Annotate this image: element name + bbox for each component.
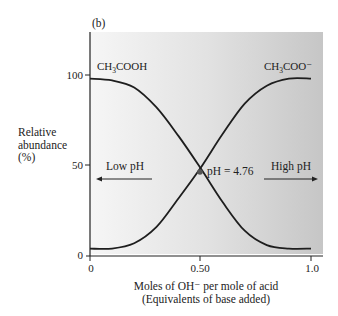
titration-chart: (b) 100 50 0 0 0.50 1.0 Relative abundan… [0, 0, 338, 316]
y-tick-label-50: 50 [72, 159, 84, 171]
y-tick-label-0: 0 [78, 249, 84, 261]
x-tick-label-1: 1.0 [305, 262, 319, 274]
y-axis-label-line1: Relative [18, 126, 56, 138]
x-tick-label-050: 0.50 [190, 262, 210, 274]
high-ph-label: High pH [271, 160, 311, 173]
x-axis-label-line2: (Equivalents of base added) [142, 293, 270, 306]
y-tick-label-100: 100 [67, 69, 84, 81]
y-axis-label-line3: (%) [18, 151, 35, 164]
low-ph-label: Low pH [106, 160, 144, 173]
pka-annotation: pH = 4.76 [207, 165, 254, 178]
y-axis-label-line2: abundance [18, 139, 67, 151]
x-axis-label: Moles of OH⁻ per mole of acid [134, 280, 279, 293]
x-tick-label-0: 0 [88, 262, 94, 274]
midpoint-marker [197, 169, 203, 175]
panel-label: (b) [92, 17, 106, 30]
